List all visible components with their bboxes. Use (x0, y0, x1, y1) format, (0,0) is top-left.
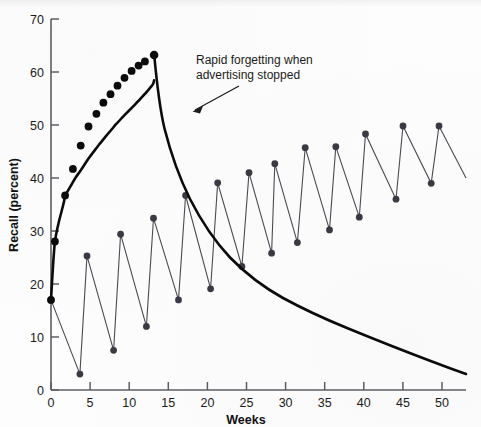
x-tick-label-40: 40 (357, 396, 371, 410)
data-point (362, 131, 369, 138)
y-tick-label-0: 0 (37, 384, 44, 398)
data-point (294, 239, 301, 246)
x-axis-ticks (51, 382, 442, 390)
data-point (84, 253, 91, 260)
data-point (77, 142, 85, 150)
data-point (128, 67, 136, 75)
x-axis-title: Weeks (226, 413, 265, 427)
data-point (436, 123, 443, 130)
y-tick-label-40: 40 (30, 172, 44, 186)
y-tick-label-20: 20 (30, 278, 44, 292)
data-point (47, 296, 55, 304)
annotation-line-2: advertising stopped (196, 68, 300, 82)
y-tick-label-50: 50 (30, 119, 44, 133)
x-tick-label-45: 45 (396, 396, 410, 410)
annotation-arrow-line (195, 86, 239, 110)
pulsed-advertising-series (48, 123, 466, 378)
data-point (393, 196, 400, 203)
data-point (326, 227, 333, 234)
x-tick-label-15: 15 (161, 396, 175, 410)
learning-curve-markers (47, 51, 158, 304)
data-point (107, 90, 115, 98)
rapid-forgetting-note: Rapid forgetting when advertising stoppe… (193, 53, 313, 114)
continuous-advertising-series (47, 51, 466, 374)
x-tick-label-50: 50 (435, 396, 449, 410)
y-axis-ticks (51, 19, 59, 390)
data-point (332, 143, 339, 150)
pulsed-advertising-markers (48, 123, 443, 378)
x-tick-label-30: 30 (279, 396, 293, 410)
x-tick-label-5: 5 (87, 396, 94, 410)
y-tick-label-60: 60 (30, 66, 44, 80)
data-point (150, 51, 159, 60)
data-point (214, 179, 221, 186)
data-point (85, 123, 93, 131)
data-point (302, 144, 309, 151)
data-point (268, 250, 275, 257)
data-point (69, 165, 77, 173)
chart-page: 70 60 50 40 30 20 10 0 0 5 10 (0, 0, 481, 427)
data-point (246, 169, 253, 176)
data-point (100, 99, 108, 107)
annotation-arrow-head (193, 106, 204, 114)
data-point (110, 347, 117, 354)
data-point (51, 238, 59, 246)
x-axis-tick-labels: 0 5 10 15 20 25 30 35 40 45 50 (48, 396, 449, 410)
pulsed-advertising-line (51, 126, 466, 374)
data-point (207, 285, 214, 292)
x-tick-label-25: 25 (240, 396, 254, 410)
data-point (428, 180, 435, 187)
data-point (175, 297, 182, 304)
data-point (400, 123, 407, 130)
data-point (93, 110, 101, 118)
data-point (114, 82, 122, 90)
data-point (150, 215, 157, 222)
data-point (141, 58, 149, 66)
data-point (77, 371, 84, 378)
forgetting-decay-curve (154, 54, 466, 374)
y-tick-label-70: 70 (30, 13, 44, 27)
x-tick-label-20: 20 (200, 396, 214, 410)
y-axis-title: Recall (percent) (7, 158, 21, 252)
data-point (356, 214, 363, 221)
data-point (271, 160, 278, 167)
data-point (143, 323, 150, 330)
data-point (117, 231, 124, 238)
y-axis-tick-labels: 70 60 50 40 30 20 10 0 (30, 13, 44, 398)
annotation-line-1: Rapid forgetting when (196, 53, 313, 67)
data-point (121, 74, 129, 82)
x-tick-label-35: 35 (318, 396, 332, 410)
data-point (61, 192, 69, 200)
x-tick-label-0: 0 (48, 396, 55, 410)
y-tick-label-30: 30 (30, 225, 44, 239)
learning-curve-path (51, 80, 154, 300)
y-tick-label-10: 10 (30, 331, 44, 345)
recall-vs-weeks-chart: 70 60 50 40 30 20 10 0 0 5 10 (0, 0, 481, 427)
x-tick-label-10: 10 (122, 396, 136, 410)
